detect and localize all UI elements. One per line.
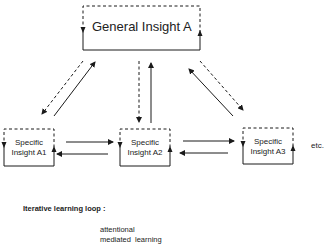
specific-insight-a1-line2: Insight A1: [11, 148, 47, 157]
solid-arrow-up-left-icon: [189, 69, 233, 116]
middle-arrow-pair: [139, 61, 151, 123]
specific-insight-a2-box: Specific Insight A2: [118, 129, 173, 166]
dashed-arrow-down-right-icon: [200, 61, 243, 110]
a2-a3-arrows: [180, 141, 234, 153]
specific-insight-a3-line2: Insight A3: [250, 147, 286, 156]
general-insight-label: General Insight A: [92, 19, 192, 34]
legend-title: Iterative learning loop :: [23, 204, 106, 213]
dashed-arrow-down-left-icon: [42, 61, 83, 114]
loop-up-arrowhead-icon: [198, 30, 203, 36]
general-insight-box: General Insight A: [81, 6, 203, 50]
etc-label: etc.: [311, 141, 324, 150]
insight-diagram: General Insight A Specific Insight A1 Sp…: [0, 0, 328, 251]
legend-line2: mediated learning: [100, 235, 162, 244]
left-arrow-pair: [42, 61, 95, 116]
solid-arrow-up-right-icon: [54, 62, 95, 116]
specific-insight-a2-line2: Insight A2: [127, 148, 163, 157]
specific-insight-a1-box: Specific Insight A1: [2, 129, 57, 166]
specific-insight-a3-line1: Specific: [254, 137, 282, 146]
a1-a2-arrows: [57, 142, 113, 154]
specific-insight-a3-box: Specific Insight A3: [241, 128, 296, 164]
legend-line1: attentional: [100, 225, 135, 234]
right-arrow-pair: [189, 61, 243, 116]
loop-down-arrowhead-icon: [81, 27, 86, 33]
specific-insight-a1-line1: Specific: [15, 138, 43, 147]
specific-insight-a2-line1: Specific: [131, 138, 159, 147]
